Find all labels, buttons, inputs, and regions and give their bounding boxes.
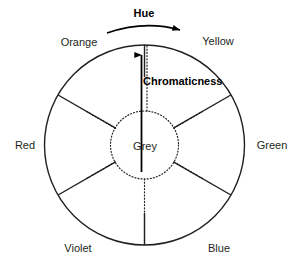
hue-label-green: Green — [257, 140, 288, 151]
hue-arc-arrow — [107, 26, 180, 33]
color-wheel-graphic — [0, 0, 296, 262]
hue-label: Hue — [134, 8, 155, 19]
hue-label-blue: Blue — [208, 243, 230, 254]
hue-label-orange: Orange — [61, 37, 98, 48]
color-wheel-diagram: Hue Chromaticness Grey Orange Yellow Gre… — [0, 0, 296, 262]
dotted-spoke-upper-left — [85, 111, 115, 128]
grey-label: Grey — [133, 141, 157, 152]
chromaticness-label: Chromaticness — [143, 76, 222, 87]
hue-label-red: Red — [15, 140, 35, 151]
hue-label-violet: Violet — [64, 243, 91, 254]
hue-label-yellow: Yellow — [202, 36, 233, 47]
